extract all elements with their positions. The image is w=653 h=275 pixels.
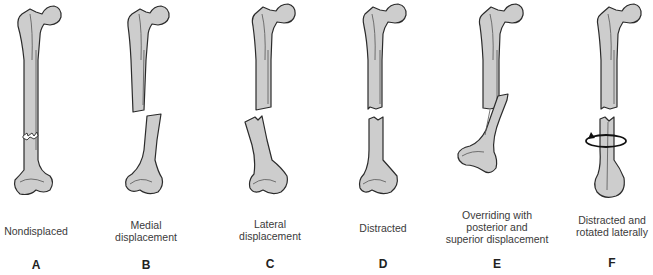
- femur-c-lateral-displacement: [245, 4, 295, 194]
- femur-e-overriding: [458, 4, 523, 173]
- panel-letter-b: B: [142, 258, 151, 272]
- caption-d: Distracted: [359, 222, 406, 234]
- panel-letter-a: A: [32, 258, 41, 272]
- caption-f: Distracted and rotated laterally: [576, 214, 648, 238]
- caption-b: Medial displacement: [115, 219, 177, 243]
- caption-e: Overriding with posterior and superior d…: [446, 209, 549, 245]
- bone-illustrations: [0, 0, 653, 275]
- caption-a: Nondisplaced: [4, 225, 68, 237]
- femur-b-medial-displacement: [126, 6, 170, 194]
- femur-d-distracted: [360, 4, 407, 194]
- caption-c: Lateral displacement: [239, 218, 301, 242]
- cut-off-text-line: [430, 270, 653, 275]
- femur-fracture-displacement-diagram: Nondisplaced Medial displacement Lateral…: [0, 0, 653, 275]
- panel-letter-d: D: [379, 257, 388, 271]
- femur-f-distracted-rotated: [586, 4, 641, 197]
- panel-letter-f: F: [608, 256, 615, 270]
- panel-letter-c: C: [266, 257, 275, 271]
- panel-letter-e: E: [493, 257, 501, 271]
- femur-a-nondisplaced: [15, 6, 62, 195]
